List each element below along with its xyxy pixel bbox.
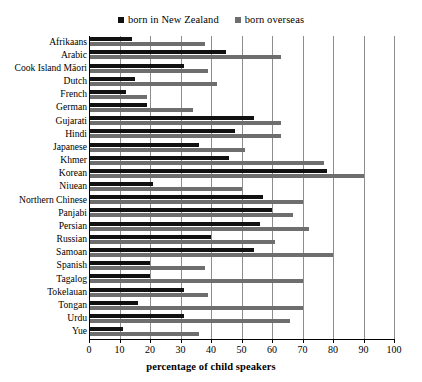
bar-group <box>89 248 394 261</box>
y-axis-label: French <box>1 89 87 99</box>
bar-born-overseas <box>89 306 303 310</box>
bar-group <box>89 261 394 274</box>
x-tick-label: 0 <box>74 344 104 355</box>
square-gray-icon <box>235 17 241 23</box>
x-tick <box>333 339 334 343</box>
bar-born-overseas <box>89 213 293 217</box>
bar-born-overseas <box>89 69 208 73</box>
x-tick-label: 60 <box>257 344 287 355</box>
gridline <box>394 36 395 339</box>
y-axis-label: Samoan <box>1 247 87 257</box>
legend-item-born-in-new-zealand: born in New Zealand <box>118 14 219 25</box>
bar-born-overseas <box>89 108 193 112</box>
bar-born-overseas <box>89 200 303 204</box>
bar-born-overseas <box>89 227 309 231</box>
x-tick <box>120 339 121 343</box>
x-tick <box>150 339 151 343</box>
bar-group <box>89 103 394 116</box>
y-axis-label: Cook Island Māori <box>1 63 87 73</box>
bar-born-in-new-zealand <box>89 143 199 147</box>
y-axis-label: Tongan <box>1 300 87 310</box>
bar-born-overseas <box>89 174 364 178</box>
bar-born-overseas <box>89 134 281 138</box>
bar-born-overseas <box>89 161 324 165</box>
y-axis-label: Japanese <box>1 142 87 152</box>
bar-group <box>89 37 394 50</box>
bar-group <box>89 116 394 129</box>
y-axis-label: Panjabi <box>1 208 87 218</box>
x-tick <box>364 339 365 343</box>
y-axis-label: Yue <box>1 326 87 336</box>
y-axis-label: Persian <box>1 221 87 231</box>
bar-born-in-new-zealand <box>89 90 126 94</box>
bar-born-overseas <box>89 240 275 244</box>
x-tick <box>394 339 395 343</box>
bar-born-overseas <box>89 279 303 283</box>
y-axis-label: Gujarati <box>1 116 87 126</box>
bar-group <box>89 50 394 63</box>
x-axis-title: percentage of child speakers <box>0 361 422 372</box>
y-axis-label: Russian <box>1 234 87 244</box>
y-axis-line <box>89 36 90 340</box>
bar-born-in-new-zealand <box>89 314 184 318</box>
bar-born-overseas <box>89 253 333 257</box>
y-axis-label: Tagalog <box>1 274 87 284</box>
bar-group <box>89 90 394 103</box>
bar-born-in-new-zealand <box>89 327 123 331</box>
bar-group <box>89 235 394 248</box>
x-tick <box>303 339 304 343</box>
y-axis-label: Northern Chinese <box>1 195 87 205</box>
y-axis-category-labels: AfrikaansArabicCook Island MāoriDutchFre… <box>0 36 87 339</box>
bar-born-overseas <box>89 266 205 270</box>
bar-group <box>89 129 394 142</box>
y-axis-label: Arabic <box>1 50 87 60</box>
x-tick-label: 40 <box>196 344 226 355</box>
bar-group <box>89 208 394 221</box>
plot-area <box>89 36 394 339</box>
bar-born-overseas <box>89 293 208 297</box>
bar-born-in-new-zealand <box>89 274 150 278</box>
bar-group <box>89 274 394 287</box>
bar-group <box>89 301 394 314</box>
x-tick <box>211 339 212 343</box>
x-tick <box>89 339 90 343</box>
bar-chart: born in New Zealand born overseas Afrika… <box>0 0 422 382</box>
square-dark-icon <box>118 17 124 23</box>
y-axis-label: Hindi <box>1 129 87 139</box>
legend-label-born-in-new-zealand: born in New Zealand <box>128 14 219 25</box>
bar-born-overseas <box>89 82 217 86</box>
bar-born-in-new-zealand <box>89 37 132 41</box>
bar-born-in-new-zealand <box>89 235 211 239</box>
bar-born-in-new-zealand <box>89 156 229 160</box>
x-tick <box>272 339 273 343</box>
bar-born-in-new-zealand <box>89 64 184 68</box>
bar-group <box>89 64 394 77</box>
bar-group <box>89 143 394 156</box>
y-axis-label: Tokelauan <box>1 287 87 297</box>
bar-born-in-new-zealand <box>89 195 263 199</box>
bar-born-in-new-zealand <box>89 116 254 120</box>
x-tick-label: 20 <box>135 344 165 355</box>
bar-born-in-new-zealand <box>89 261 150 265</box>
bar-group <box>89 77 394 90</box>
bar-group <box>89 288 394 301</box>
bar-born-in-new-zealand <box>89 182 153 186</box>
x-tick-label: 50 <box>227 344 257 355</box>
x-tick <box>242 339 243 343</box>
bar-born-in-new-zealand <box>89 129 235 133</box>
bar-born-in-new-zealand <box>89 169 327 173</box>
bar-born-overseas <box>89 148 245 152</box>
bar-born-in-new-zealand <box>89 103 147 107</box>
bar-born-overseas <box>89 319 290 323</box>
bar-born-in-new-zealand <box>89 50 226 54</box>
legend-label-born-overseas: born overseas <box>245 14 304 25</box>
bar-born-overseas <box>89 121 281 125</box>
bar-group <box>89 222 394 235</box>
y-axis-label: Spanish <box>1 260 87 270</box>
bar-group <box>89 195 394 208</box>
legend-item-born-overseas: born overseas <box>235 14 304 25</box>
x-tick-label: 30 <box>166 344 196 355</box>
x-tick-label: 90 <box>349 344 379 355</box>
y-axis-label: Niuean <box>1 181 87 191</box>
chart-legend: born in New Zealand born overseas <box>0 14 422 25</box>
